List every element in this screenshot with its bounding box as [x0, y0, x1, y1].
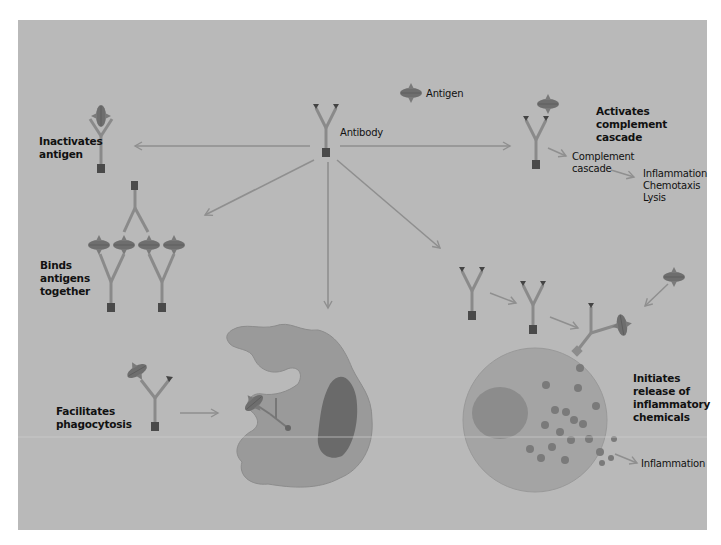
antigen-legend-label: Antigen — [426, 88, 463, 100]
complement-cascade-label: Complement cascade — [572, 151, 634, 175]
binds-antigens-lattice — [88, 181, 185, 312]
antibody-functions-diagram — [0, 0, 721, 545]
central-antibody — [313, 104, 339, 157]
crosslinked-antibody-icon — [571, 303, 633, 357]
inactivates-antigen-label: Inactivates antigen — [39, 135, 102, 161]
complement-antibody-icon — [523, 94, 559, 169]
free-antibody-icon — [459, 267, 485, 320]
bound-antibody-icon — [520, 281, 546, 334]
antigen-legend-icon — [400, 83, 422, 103]
activates-complement-label: Activates complement cascade — [596, 105, 667, 144]
incoming-antigen-icon — [663, 267, 685, 287]
facilitates-phagocytosis-label: Facilitates phagocytosis — [56, 405, 132, 431]
inflammation-outcome-label: Inflammation — [641, 458, 705, 470]
initiates-inflammatory-label: Initiates release of inflammatory chemic… — [633, 372, 710, 424]
phagocyte-cell — [227, 324, 372, 487]
binds-antigens-label: Binds antigens together — [40, 259, 90, 298]
antibody-label: Antibody — [340, 127, 383, 139]
complement-outcomes-label: Inflammation Chemotaxis Lysis — [643, 168, 707, 204]
